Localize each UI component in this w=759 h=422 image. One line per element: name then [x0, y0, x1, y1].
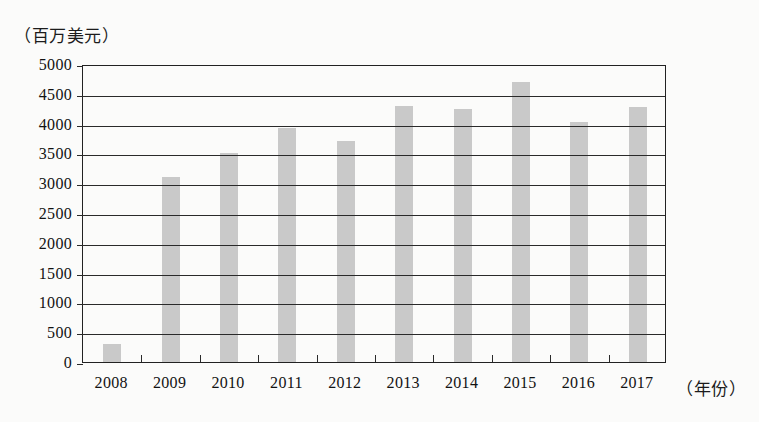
x-axis-tick-label: 2008	[95, 374, 128, 392]
x-axis-tick-mark	[433, 355, 434, 362]
x-axis-tick-label: 2015	[503, 374, 536, 392]
gridline	[83, 304, 665, 305]
x-axis-tick-label: 2009	[153, 374, 186, 392]
y-axis-tick-mark	[77, 215, 83, 216]
gridline	[83, 275, 665, 276]
y-axis-tick-label: 3000	[0, 175, 72, 193]
y-axis-tick-label: 2000	[0, 235, 72, 253]
y-axis-tick-label: 4000	[0, 116, 72, 134]
y-axis-tick-label: 500	[0, 324, 72, 342]
y-axis-tick-mark	[77, 96, 83, 97]
y-axis-unit-label: （百万美元）	[14, 22, 119, 47]
gridline	[83, 215, 665, 216]
y-axis-tick-mark	[77, 245, 83, 246]
x-axis-title: （年份）	[676, 375, 746, 400]
x-axis-tick-mark	[550, 355, 551, 362]
y-axis-tick-mark	[77, 364, 83, 365]
bar	[395, 106, 413, 362]
x-axis-tick-label: 2012	[328, 374, 361, 392]
x-axis-tick-mark	[200, 355, 201, 362]
bar	[103, 344, 121, 362]
gridline	[83, 126, 665, 127]
y-axis-tick-mark	[77, 275, 83, 276]
bar	[512, 82, 530, 362]
gridline	[83, 96, 665, 97]
y-axis-tick-label: 1500	[0, 265, 72, 283]
gridline	[83, 334, 665, 335]
y-axis-tick-label: 1000	[0, 294, 72, 312]
y-axis-tick-label: 3500	[0, 145, 72, 163]
y-axis-tick-mark	[77, 155, 83, 156]
y-axis-tick-label: 2500	[0, 205, 72, 223]
y-axis-tick-mark	[77, 66, 83, 67]
x-axis-tick-mark	[141, 355, 142, 362]
gridline	[83, 185, 665, 186]
x-axis-tick-mark	[258, 355, 259, 362]
x-axis-tick-label: 2016	[562, 374, 595, 392]
gridline	[83, 245, 665, 246]
x-axis-tick-mark	[609, 355, 610, 362]
x-axis-tick-label: 2010	[211, 374, 244, 392]
x-axis-tick-label: 2017	[620, 374, 653, 392]
x-axis-tick-mark	[317, 355, 318, 362]
gridline	[83, 155, 665, 156]
bar-chart: （百万美元） （年份） 0500100015002000250030003500…	[0, 0, 759, 422]
y-axis-tick-label: 0	[0, 354, 72, 372]
y-axis-tick-mark	[77, 334, 83, 335]
x-axis-tick-label: 2011	[270, 374, 303, 392]
bar	[454, 109, 472, 362]
bar	[570, 122, 588, 362]
y-axis-tick-label: 4500	[0, 86, 72, 104]
y-axis-tick-mark	[77, 304, 83, 305]
y-axis-tick-mark	[77, 126, 83, 127]
bar	[629, 107, 647, 362]
plot-area	[82, 65, 666, 363]
x-axis-tick-mark	[375, 355, 376, 362]
bar	[337, 141, 355, 362]
x-axis-tick-mark	[492, 355, 493, 362]
x-axis-tick-label: 2014	[445, 374, 478, 392]
y-axis-tick-label: 5000	[0, 56, 72, 74]
x-axis-tick-label: 2013	[387, 374, 420, 392]
y-axis-tick-mark	[77, 185, 83, 186]
